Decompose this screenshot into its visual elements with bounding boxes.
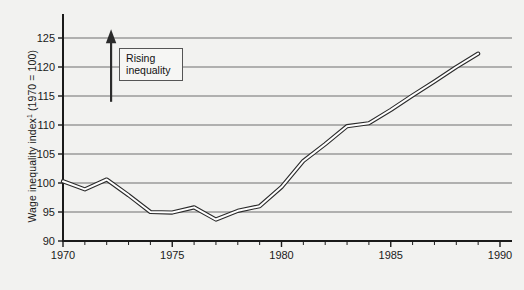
annotation-line-2: inequality: [126, 64, 176, 76]
rising-inequality-annotation: Rising inequality: [119, 48, 183, 81]
rising-inequality-arrow-icon: [106, 29, 116, 102]
annotation-line-1: Rising: [126, 52, 176, 64]
wage-inequality-chart: Wage inequality index1 (1970 = 100) 1251…: [0, 0, 524, 290]
plot-area: [0, 0, 524, 290]
